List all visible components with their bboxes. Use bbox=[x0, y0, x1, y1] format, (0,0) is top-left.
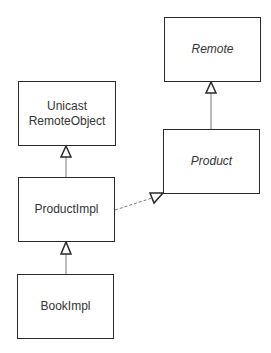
class-label-line: Unicast bbox=[47, 99, 87, 113]
class-unicast-remote-object: Unicast RemoteObject bbox=[18, 81, 116, 146]
class-book-impl: BookImpl bbox=[17, 274, 114, 339]
class-label: Remote bbox=[191, 42, 233, 57]
class-product-impl: ProductImpl bbox=[18, 177, 115, 242]
class-label: ProductImpl bbox=[34, 202, 98, 217]
class-product: Product bbox=[163, 129, 260, 194]
class-remote: Remote bbox=[164, 17, 261, 82]
class-label: Unicast RemoteObject bbox=[29, 99, 106, 129]
hollow-triangle-icon bbox=[206, 82, 216, 93]
hollow-triangle-icon bbox=[150, 193, 163, 203]
hollow-triangle-icon bbox=[61, 146, 71, 157]
class-label: BookImpl bbox=[40, 299, 90, 314]
class-label-line: RemoteObject bbox=[29, 114, 106, 128]
realization-productimpl-product bbox=[115, 198, 152, 210]
hollow-triangle-icon bbox=[61, 242, 71, 254]
class-label: Product bbox=[191, 154, 232, 169]
